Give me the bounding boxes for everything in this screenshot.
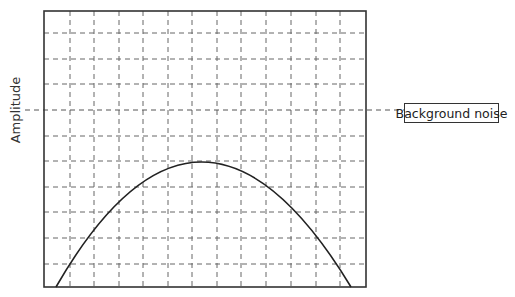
plot-frame xyxy=(44,11,366,287)
plot-svg xyxy=(0,0,515,297)
grid-horizontal xyxy=(44,33,366,264)
signal-curve xyxy=(56,162,351,287)
grid-vertical xyxy=(70,11,340,287)
y-axis-label: Amplitude xyxy=(8,77,23,144)
background-noise-label: Background noise xyxy=(404,103,499,123)
